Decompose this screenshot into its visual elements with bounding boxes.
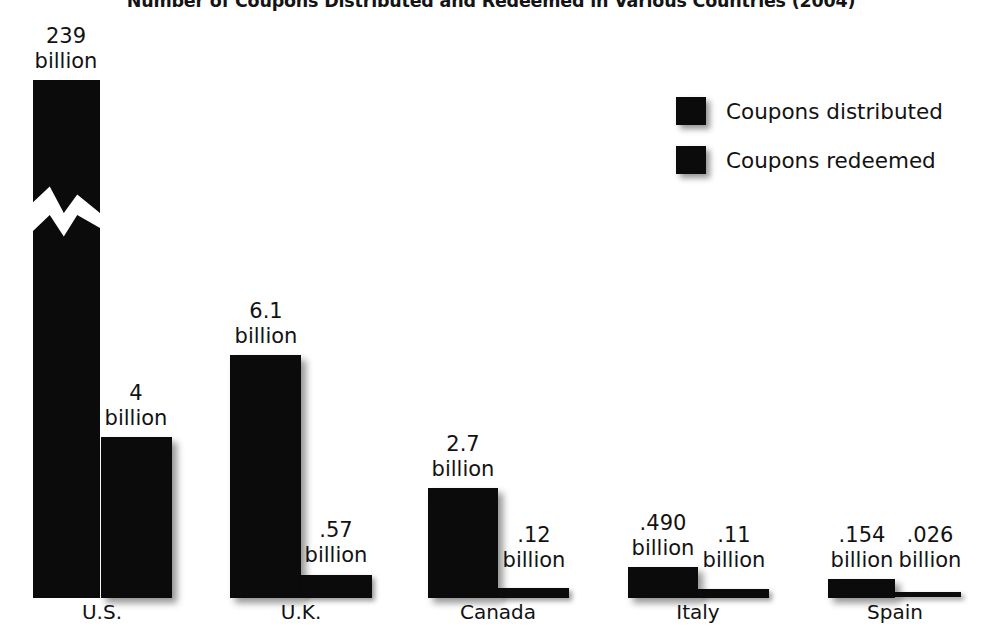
- value-label-us-redeemed: 4 billion: [86, 381, 186, 431]
- value-number: 6.1: [216, 299, 316, 324]
- legend-swatch-icon: [676, 97, 706, 125]
- chart-title: Number of Coupons Distributed and Redeem…: [0, 0, 982, 11]
- value-label-italy-redeemed: .11 billion: [684, 523, 784, 573]
- bar-canada-redeemed: [498, 588, 569, 598]
- value-unit: billion: [16, 49, 116, 74]
- value-number: 2.7: [413, 432, 513, 457]
- chart-legend: Coupons distributed Coupons redeemed: [676, 96, 943, 194]
- category-label-spain: Spain: [845, 600, 945, 624]
- value-unit: billion: [684, 548, 784, 573]
- legend-swatch-icon: [676, 146, 706, 174]
- value-number: .12: [484, 523, 584, 548]
- value-unit: billion: [413, 457, 513, 482]
- value-number: .57: [286, 518, 386, 543]
- category-label-italy: Italy: [648, 600, 748, 624]
- value-unit: billion: [484, 548, 584, 573]
- value-number: .026: [880, 523, 980, 548]
- category-label-uk: U.K.: [251, 600, 351, 624]
- value-unit: billion: [880, 548, 980, 573]
- bar-uk-redeemed: [301, 575, 372, 598]
- bar-us-redeemed: [101, 437, 172, 598]
- value-number: 239: [16, 24, 116, 49]
- value-unit: billion: [86, 406, 186, 431]
- value-unit: billion: [216, 324, 316, 349]
- value-label-us-distributed: 239 billion: [16, 24, 116, 74]
- value-label-uk-redeemed: .57 billion: [286, 518, 386, 568]
- value-number: 4: [86, 381, 186, 406]
- value-label-canada-redeemed: .12 billion: [484, 523, 584, 573]
- bar-spain-redeemed: [895, 592, 961, 597]
- bar-italy-redeemed: [698, 589, 769, 598]
- legend-item-coupons-redeemed: Coupons redeemed: [676, 145, 943, 175]
- coupons-bar-chart: Number of Coupons Distributed and Redeem…: [0, 0, 982, 634]
- value-unit: billion: [286, 543, 386, 568]
- category-label-canada: Canada: [448, 600, 548, 624]
- legend-item-coupons-distributed: Coupons distributed: [676, 96, 943, 126]
- value-label-spain-redeemed: .026 billion: [880, 523, 980, 573]
- bar-spain-distributed: [828, 579, 895, 598]
- bar-us-distributed-upper: [33, 80, 100, 213]
- legend-label: Coupons redeemed: [726, 148, 936, 173]
- category-label-us: U.S.: [52, 600, 152, 624]
- value-label-uk-distributed: 6.1 billion: [216, 299, 316, 349]
- value-number: .11: [684, 523, 784, 548]
- legend-label: Coupons distributed: [726, 99, 943, 124]
- value-label-canada-distributed: 2.7 billion: [413, 432, 513, 482]
